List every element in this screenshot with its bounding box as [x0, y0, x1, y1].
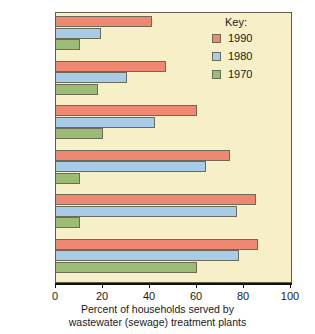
legend: Key: 199019801970: [212, 13, 288, 86]
legend-swatch-1990: [212, 34, 221, 43]
bar-germany-1990[interactable]: [56, 239, 258, 250]
bar-britain-1980[interactable]: [56, 206, 237, 217]
bar-row: [56, 239, 291, 250]
bar-germany-1970[interactable]: [56, 262, 197, 273]
bar-row: [56, 173, 291, 184]
bar-spain-1980[interactable]: [56, 28, 101, 39]
x-tick-label: 100: [270, 290, 310, 302]
legend-item-1990[interactable]: 1990: [212, 32, 288, 44]
bar-group: [56, 150, 291, 189]
bar-usa-1970[interactable]: [56, 173, 80, 184]
caption-line-1: Percent of households served by: [0, 303, 315, 316]
bar-spain-1990[interactable]: [56, 16, 152, 27]
x-tick: [55, 283, 56, 288]
legend-swatch-1970: [212, 70, 221, 79]
bar-italy-1980[interactable]: [56, 72, 127, 83]
bar-britain-1970[interactable]: [56, 217, 80, 228]
legend-swatch-1980: [212, 52, 221, 61]
bar-germany-1980[interactable]: [56, 250, 239, 261]
legend-item-1980[interactable]: 1980: [212, 50, 288, 62]
x-tick-label: 0: [35, 290, 75, 302]
x-tick-label: 60: [176, 290, 216, 302]
bar-row: [56, 250, 291, 261]
legend-items: 199019801970: [212, 32, 288, 80]
bar-group: [56, 239, 291, 278]
x-tick: [102, 283, 103, 288]
bar-row: [56, 217, 291, 228]
bar-chart-figure: SpainItalyFranceU.S.A.BritainGermany 020…: [0, 0, 315, 334]
legend-label-1970: 1970: [228, 68, 252, 80]
bar-row: [56, 194, 291, 205]
x-tick-label: 20: [82, 290, 122, 302]
caption-line-2: wastewater (sewage) treatment plants: [0, 316, 315, 329]
bar-italy-1970[interactable]: [56, 84, 98, 95]
legend-title: Key:: [225, 16, 288, 28]
bar-france-1990[interactable]: [56, 105, 197, 116]
bar-row: [56, 262, 291, 273]
bar-france-1980[interactable]: [56, 117, 155, 128]
x-tick: [196, 283, 197, 288]
x-tick: [149, 283, 150, 288]
x-tick-label: 40: [129, 290, 169, 302]
x-axis: 020406080100: [55, 283, 292, 285]
bar-row: [56, 117, 291, 128]
x-tick-label: 80: [223, 290, 263, 302]
bar-britain-1990[interactable]: [56, 194, 256, 205]
x-tick: [290, 283, 291, 288]
chart-caption: Percent of households served by wastewat…: [0, 303, 315, 329]
bar-row: [56, 105, 291, 116]
bar-row: [56, 128, 291, 139]
bar-group: [56, 105, 291, 144]
legend-label-1980: 1980: [228, 50, 252, 62]
bar-italy-1990[interactable]: [56, 61, 166, 72]
bar-france-1970[interactable]: [56, 128, 103, 139]
bar-usa-1990[interactable]: [56, 150, 230, 161]
bar-usa-1980[interactable]: [56, 161, 206, 172]
legend-item-1970[interactable]: 1970: [212, 68, 288, 80]
bar-row: [56, 150, 291, 161]
bar-spain-1970[interactable]: [56, 39, 80, 50]
x-tick: [243, 283, 244, 288]
bar-row: [56, 161, 291, 172]
bar-row: [56, 206, 291, 217]
bar-group: [56, 194, 291, 233]
legend-label-1990: 1990: [228, 32, 252, 44]
